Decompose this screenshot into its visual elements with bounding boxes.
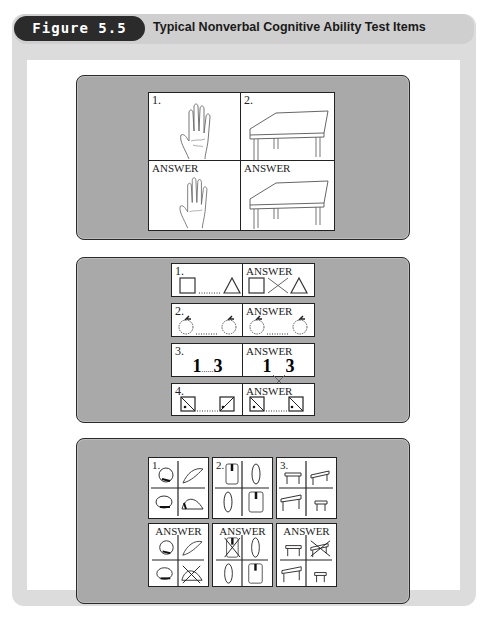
apple-icon bbox=[247, 312, 312, 336]
odd-2-answer: ANSWER bbox=[212, 523, 273, 587]
tables-icon bbox=[277, 535, 335, 587]
seq-3-answer: ANSWER 13 bbox=[242, 343, 315, 377]
table-icon bbox=[246, 105, 331, 161]
hand-icon bbox=[177, 101, 217, 161]
apple-icon bbox=[176, 312, 241, 336]
item-2-question: 2. bbox=[240, 92, 335, 162]
seq-1-answer: ANSWER bbox=[242, 263, 315, 297]
odd-2-question: 2. bbox=[212, 457, 273, 519]
panel-picture-completion: 1. 2. ANSWER ANSWER bbox=[76, 75, 410, 240]
item-label: 1. bbox=[152, 94, 161, 106]
diagonal-square-icon bbox=[178, 394, 243, 414]
hand-icon bbox=[175, 175, 215, 230]
square-cross-triangle-icon bbox=[246, 275, 311, 295]
odd-3-answer: ANSWER bbox=[276, 523, 337, 587]
odd-3-question: 3. bbox=[276, 457, 337, 519]
seq-1-question: 1. bbox=[171, 263, 244, 297]
number-sequence: 1......3 bbox=[172, 357, 243, 379]
answer-label: ANSWER bbox=[244, 162, 290, 174]
odd-1-question: 1. bbox=[148, 457, 209, 519]
item-1-answer: ANSWER bbox=[148, 160, 242, 231]
panel-sequence: 1. ANSWER 2. ANSWER bbox=[76, 257, 410, 423]
seq-3-question: 3. 1......3 bbox=[171, 343, 244, 377]
jackets-icon bbox=[213, 535, 271, 587]
hats-icon bbox=[149, 459, 207, 517]
figure-title: Typical Nonverbal Cognitive Ability Test… bbox=[153, 20, 426, 34]
figure-label: Figure 5.5 bbox=[14, 16, 145, 41]
item-2-answer: ANSWER bbox=[240, 160, 335, 231]
seq-2-answer: ANSWER bbox=[242, 303, 315, 337]
answer-label: ANSWER bbox=[152, 162, 198, 174]
hats-icon bbox=[149, 535, 207, 587]
table-icon bbox=[246, 175, 331, 231]
square-triangle-icon bbox=[177, 275, 242, 295]
item-label: 3. bbox=[175, 345, 184, 357]
odd-1-answer: ANSWER bbox=[148, 523, 209, 587]
jackets-icon bbox=[213, 459, 271, 517]
tables-icon bbox=[277, 459, 335, 517]
diagonal-square-icon bbox=[247, 394, 312, 414]
number-sequence-answer: 13 bbox=[243, 357, 314, 375]
seq-2-question: 2. bbox=[171, 303, 244, 337]
item-1-question: 1. bbox=[148, 92, 242, 162]
seq-4-answer: ANSWER bbox=[242, 383, 315, 416]
panel-odd-one-out: 1. 2. 3. ANSWER bbox=[76, 438, 410, 604]
seq-4-question: 4. bbox=[171, 383, 244, 416]
